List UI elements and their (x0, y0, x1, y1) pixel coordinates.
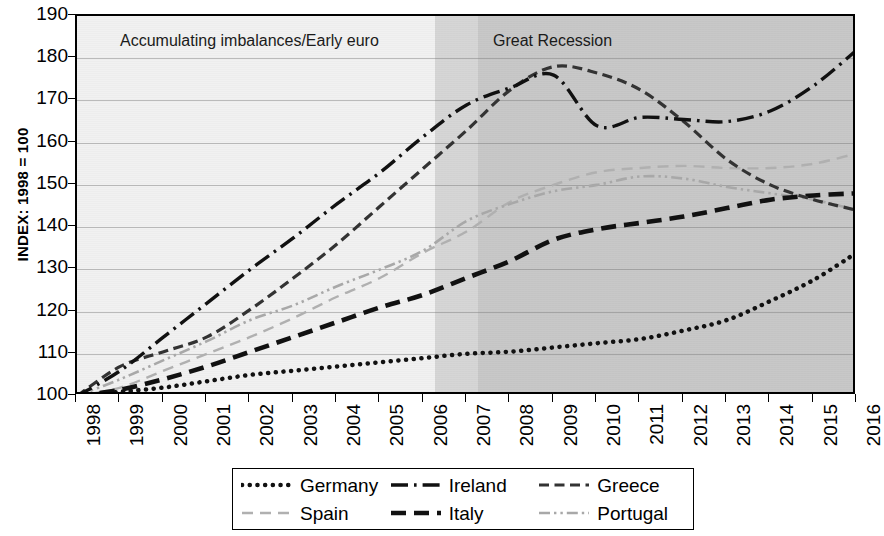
x-tick-2015: 2015 (821, 404, 840, 474)
x-tick-2001: 2001 (214, 404, 233, 474)
y-tick-190: 190 (22, 4, 68, 23)
y-tick-mark (68, 310, 75, 311)
x-tick-2010: 2010 (604, 404, 623, 474)
legend-item-spain[interactable]: Spain (241, 504, 390, 523)
legend-swatch-ireland (390, 478, 442, 492)
x-tick-2016: 2016 (864, 404, 883, 474)
x-tick-mark (378, 394, 379, 402)
series-lines (77, 16, 855, 394)
x-tick-mark (465, 394, 466, 402)
y-tick-180: 180 (22, 46, 68, 65)
legend-swatch-greece (538, 478, 590, 492)
x-tick-2003: 2003 (301, 404, 320, 474)
y-tick-mark (68, 183, 75, 184)
x-tick-2011: 2011 (647, 404, 666, 474)
x-tick-2013: 2013 (734, 404, 753, 474)
y-tick-130: 130 (22, 257, 68, 276)
legend-item-portugal[interactable]: Portugal (538, 504, 687, 523)
x-tick-mark (638, 394, 639, 402)
legend-label: Greece (597, 476, 659, 495)
x-tick-2014: 2014 (777, 404, 796, 474)
legend-swatch-italy (390, 506, 442, 520)
x-tick-mark (118, 394, 119, 402)
x-tick-2009: 2009 (561, 404, 580, 474)
legend-swatch-germany (241, 478, 293, 492)
x-tick-mark (75, 394, 76, 402)
x-tick-2012: 2012 (691, 404, 710, 474)
x-tick-2005: 2005 (387, 404, 406, 474)
x-tick-mark (205, 394, 206, 402)
y-tick-mark (68, 141, 75, 142)
x-tick-mark (812, 394, 813, 402)
legend-item-greece[interactable]: Greece (538, 476, 687, 495)
line-italy (77, 193, 855, 394)
y-tick-mark (68, 352, 75, 353)
y-tick-mark (68, 56, 75, 57)
x-tick-mark (508, 394, 509, 402)
x-tick-mark (248, 394, 249, 402)
legend-label: Portugal (597, 504, 668, 523)
x-tick-mark (768, 394, 769, 402)
line-spain (77, 153, 855, 394)
x-tick-mark (855, 394, 856, 402)
x-tick-2007: 2007 (474, 404, 493, 474)
legend-label: Italy (449, 504, 484, 523)
legend-label: Ireland (449, 476, 507, 495)
y-tick-mark (68, 394, 75, 395)
legend-item-ireland[interactable]: Ireland (390, 476, 539, 495)
line-greece (77, 66, 855, 394)
x-tick-mark (552, 394, 553, 402)
line-portugal (77, 176, 855, 394)
x-tick-mark (162, 394, 163, 402)
x-tick-mark (292, 394, 293, 402)
y-tick-150: 150 (22, 173, 68, 192)
y-tick-mark (68, 225, 75, 226)
y-tick-170: 170 (22, 88, 68, 107)
y-tick-140: 140 (22, 215, 68, 234)
x-tick-mark (335, 394, 336, 402)
x-tick-2000: 2000 (171, 404, 190, 474)
y-tick-mark (68, 267, 75, 268)
chart-legend: GermanyIrelandGreeceSpainItalyPortugal (232, 468, 694, 530)
y-tick-mark (68, 98, 75, 99)
legend-label: Germany (300, 476, 378, 495)
y-tick-mark (68, 14, 75, 15)
x-tick-2004: 2004 (344, 404, 363, 474)
plot-area: Accumulating imbalances/Early euro Great… (75, 14, 855, 394)
legend-swatch-portugal (538, 506, 590, 520)
y-tick-110: 110 (22, 342, 68, 361)
y-tick-120: 120 (22, 300, 68, 319)
x-tick-1999: 1999 (127, 404, 146, 474)
legend-swatch-spain (241, 506, 293, 520)
x-tick-mark (422, 394, 423, 402)
y-tick-160: 160 (22, 131, 68, 150)
y-tick-100: 100 (22, 384, 68, 403)
x-tick-1998: 1998 (84, 404, 103, 474)
legend-item-germany[interactable]: Germany (241, 476, 390, 495)
x-tick-2008: 2008 (517, 404, 536, 474)
x-tick-mark (682, 394, 683, 402)
legend-item-italy[interactable]: Italy (390, 504, 539, 523)
x-tick-mark (725, 394, 726, 402)
x-tick-2002: 2002 (257, 404, 276, 474)
x-tick-mark (595, 394, 596, 402)
legend-label: Spain (300, 504, 349, 523)
x-tick-2006: 2006 (431, 404, 450, 474)
